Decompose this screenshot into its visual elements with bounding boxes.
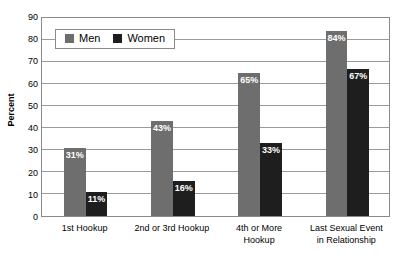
bar-chart: Percent 9080706050403020100 31%11%43%16%… [0, 0, 401, 261]
y-tick-label: 70 [16, 57, 38, 66]
bar-women: 11% [86, 192, 108, 216]
y-tick-label: 10 [16, 190, 38, 199]
bar-value-label: 43% [151, 124, 173, 133]
bar-value-label: 31% [64, 151, 86, 160]
legend-item-men: Men [65, 33, 100, 44]
y-tick-label: 90 [16, 13, 38, 22]
x-axis-label-line: 4th or More [216, 222, 303, 234]
y-tick-label: 0 [16, 213, 38, 222]
x-axis-label: Last Sexual Eventin Relationship [303, 222, 390, 246]
men-swatch-icon [65, 34, 74, 43]
plot-area: 31%11%43%16%65%33%84%67% Men Women [41, 17, 390, 217]
bar-value-label: 65% [238, 76, 260, 85]
chart-legend: Men Women [55, 29, 175, 49]
legend-item-women: Women [113, 33, 165, 44]
x-axis-label: 1st Hookup [41, 222, 128, 234]
y-axis-tick-labels: 9080706050403020100 [16, 17, 38, 217]
x-axis-label-line: Hookup [216, 234, 303, 246]
bar-men: 43% [151, 121, 173, 216]
y-tick-label: 80 [16, 35, 38, 44]
y-tick-label: 30 [16, 146, 38, 155]
y-tick-label: 60 [16, 79, 38, 88]
legend-label-men: Men [79, 33, 100, 44]
x-axis-category-labels: 1st Hookup2nd or 3rd Hookup4th or MoreHo… [41, 222, 390, 260]
y-tick-label: 40 [16, 124, 38, 133]
legend-label-women: Women [127, 33, 165, 44]
bar-value-label: 33% [260, 146, 282, 155]
x-axis-label: 4th or MoreHookup [216, 222, 303, 246]
x-axis-label-line: 1st Hookup [41, 222, 128, 234]
bar-women: 33% [260, 143, 282, 216]
y-tick-label: 50 [16, 101, 38, 110]
x-axis-label-line: 2nd or 3rd Hookup [128, 222, 215, 234]
bar-value-label: 16% [173, 184, 195, 193]
y-tick-label: 20 [16, 168, 38, 177]
bar-men: 84% [326, 31, 348, 216]
bar-value-label: 11% [86, 195, 108, 204]
bar-value-label: 84% [326, 34, 348, 43]
y-axis-title: Percent [6, 80, 16, 140]
bar-group: 84%67% [326, 18, 370, 216]
bar-men: 31% [64, 148, 86, 216]
bar-value-label: 67% [347, 72, 369, 81]
bar-group: 65%33% [238, 18, 282, 216]
x-axis-label-line: in Relationship [303, 234, 390, 246]
x-axis-label: 2nd or 3rd Hookup [128, 222, 215, 234]
x-axis-label-line: Last Sexual Event [303, 222, 390, 234]
bar-women: 16% [173, 181, 195, 216]
bar-men: 65% [238, 73, 260, 216]
bar-women: 67% [347, 69, 369, 216]
women-swatch-icon [113, 34, 122, 43]
